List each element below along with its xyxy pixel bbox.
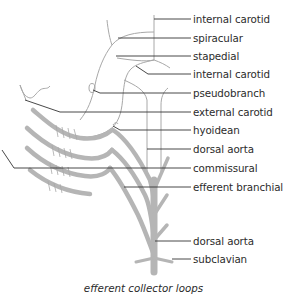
label-external-carotid: external carotid xyxy=(193,106,273,118)
label-pseudobranch: pseudobranch xyxy=(193,87,265,99)
label-subclavian: subclavian xyxy=(193,253,247,265)
figure-caption: efferent collector loops xyxy=(0,282,287,294)
thin-vessels xyxy=(20,15,170,175)
label-internal-carotid-upper: internal carotid xyxy=(193,13,270,25)
label-dorsal-aorta-lower: dorsal aorta xyxy=(193,235,254,247)
label-hyoidean: hyoidean xyxy=(193,124,240,136)
label-internal-carotid-lower: internal carotid xyxy=(193,68,270,80)
label-commissural: commissural xyxy=(193,162,257,174)
label-dorsal-aorta-upper: dorsal aorta xyxy=(193,143,254,155)
label-stapedial: stapedial xyxy=(193,50,239,62)
gill-arches xyxy=(27,110,155,255)
label-spiracular: spiracular xyxy=(193,32,243,44)
dorsal-aorta-trunk xyxy=(136,158,172,272)
label-efferent-branchial: efferent branchial xyxy=(193,181,283,193)
